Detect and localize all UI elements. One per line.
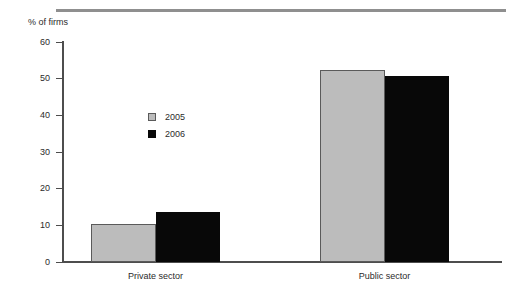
chart-legend: 2005 2006 (148, 108, 185, 142)
legend-label-2006: 2006 (165, 129, 185, 139)
bar-chart-figure: % of firms 6050403020100 Private sectorP… (0, 0, 517, 302)
legend-swatch-2005-icon (148, 113, 156, 121)
bar-public-sector-2006 (385, 76, 450, 262)
x-label-public-sector: Public sector (325, 271, 445, 282)
legend-item-2006: 2006 (148, 125, 185, 142)
y-axis-title: % of firms (28, 17, 68, 28)
bar-public-sector-2005 (320, 70, 385, 262)
bar-private-sector-2005 (91, 224, 156, 262)
legend-label-2005: 2005 (165, 112, 185, 122)
legend-item-2005: 2005 (148, 108, 185, 125)
legend-swatch-2006-icon (148, 130, 156, 138)
bar-private-sector-2006 (156, 212, 221, 262)
x-label-private-sector: Private sector (96, 271, 216, 282)
bars-layer (0, 42, 517, 262)
top-rule-divider (56, 9, 506, 12)
